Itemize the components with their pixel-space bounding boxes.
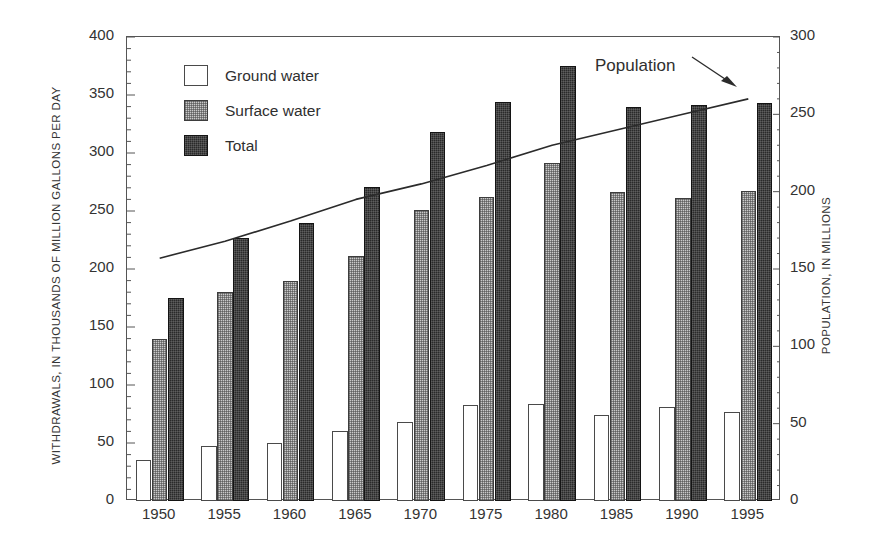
plot-area: Population Ground waterSurface waterTota… bbox=[126, 36, 780, 500]
legend-swatch-total-icon bbox=[184, 135, 208, 156]
x-axis-tick-1980: 1980 bbox=[534, 505, 567, 522]
legend-swatch-surface-icon bbox=[184, 100, 208, 121]
x-axis-tick-1995: 1995 bbox=[731, 505, 764, 522]
legend: Ground waterSurface waterTotal bbox=[184, 58, 321, 163]
legend-swatch-ground-icon bbox=[184, 65, 208, 86]
population-annotation-label: Population bbox=[595, 56, 675, 76]
legend-label: Total bbox=[225, 137, 258, 155]
x-axis-tick-1975: 1975 bbox=[469, 505, 502, 522]
legend-item-ground: Ground water bbox=[184, 58, 321, 93]
legend-item-surface: Surface water bbox=[184, 93, 321, 128]
legend-label: Ground water bbox=[225, 67, 319, 85]
x-axis-tick-1955: 1955 bbox=[207, 505, 240, 522]
x-axis-tick-1960: 1960 bbox=[273, 505, 306, 522]
x-axis-tick-1950: 1950 bbox=[142, 505, 175, 522]
x-axis-tick-1970: 1970 bbox=[404, 505, 437, 522]
x-axis-tick-1965: 1965 bbox=[338, 505, 371, 522]
water-withdrawals-chart: WITHDRAWALS, IN THOUSANDS OF MILLION GAL… bbox=[0, 0, 883, 551]
legend-label: Surface water bbox=[225, 102, 321, 120]
legend-item-total: Total bbox=[184, 128, 321, 163]
x-axis-tick-1990: 1990 bbox=[665, 505, 698, 522]
x-axis-tick-1985: 1985 bbox=[600, 505, 633, 522]
